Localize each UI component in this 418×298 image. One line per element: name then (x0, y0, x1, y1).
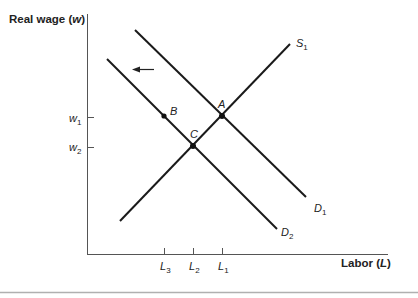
x-tick-label-L1: L1 (218, 260, 229, 275)
point-C (190, 143, 196, 149)
point-B (161, 113, 166, 118)
supply-curve-S1 (120, 44, 290, 221)
point-label-C: C (190, 128, 198, 140)
x-axis-title: Labor (L) (341, 257, 391, 269)
point-label-A: A (217, 98, 225, 110)
x-tick-label-L3: L3 (160, 260, 171, 275)
y-tick-label-w2: w2 (69, 141, 82, 156)
point-A (219, 113, 225, 119)
x-tick-label-L2: L2 (189, 260, 200, 275)
labor-market-diagram: Real wage (w) Labor (L) w1 w2 L3 L2 L1 S… (0, 0, 418, 298)
y-tick-label-w1: w1 (69, 112, 82, 127)
label-D1: D1 (314, 202, 327, 217)
shift-left-arrow-icon (132, 67, 154, 73)
y-axis-title: Real wage (w) (9, 13, 85, 25)
label-D2: D2 (281, 226, 294, 241)
label-S1: S1 (296, 37, 308, 52)
point-label-B: B (170, 105, 177, 117)
